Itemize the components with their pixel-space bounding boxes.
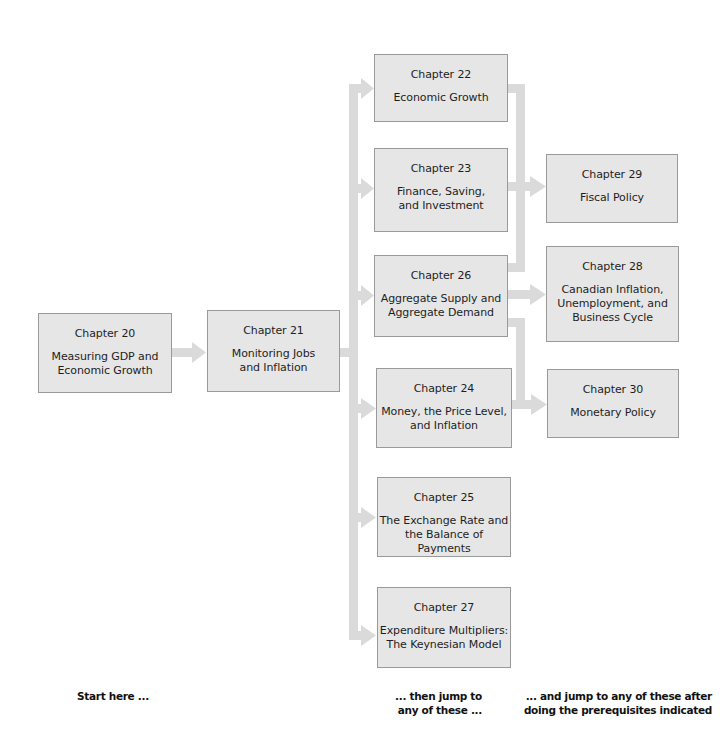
chapter-number: Chapter 20 <box>39 327 171 341</box>
chapter-number: Chapter 29 <box>547 168 677 182</box>
chapter-title: Fiscal Policy <box>547 191 677 205</box>
chapter-title: Measuring GDP and Economic Growth <box>39 350 171 378</box>
chapter-title: Expenditure Multipliers: The Keynesian M… <box>378 624 510 652</box>
chapter-28-box: Chapter 28 Canadian Inflation, Unemploym… <box>546 246 679 342</box>
chapter-title: The Exchange Rate and the Balance of Pay… <box>378 514 510 556</box>
chapter-number: Chapter 21 <box>208 324 339 338</box>
chapter-21-box: Chapter 21 Monitoring Jobs and Inflation <box>207 310 340 392</box>
chapter-24-box: Chapter 24 Money, the Price Level, and I… <box>376 368 512 448</box>
then-jump-label: ... then jump to any of these ... <box>386 689 482 717</box>
chapter-number: Chapter 23 <box>375 162 507 176</box>
chapter-25-box: Chapter 25 The Exchange Rate and the Bal… <box>377 477 511 557</box>
chapter-26-box: Chapter 26 Aggregate Supply and Aggregat… <box>374 255 508 337</box>
chapter-number: Chapter 22 <box>375 68 507 82</box>
chapter-22-box: Chapter 22 Economic Growth <box>374 54 508 122</box>
chapter-30-box: Chapter 30 Monetary Policy <box>547 369 679 438</box>
and-jump-label: ... and jump to any of these after doing… <box>512 689 712 717</box>
chapter-title: Finance, Saving, and Investment <box>375 185 507 213</box>
chapter-number: Chapter 26 <box>375 269 507 283</box>
chapter-29-box: Chapter 29 Fiscal Policy <box>546 154 678 223</box>
chapter-20-box: Chapter 20 Measuring GDP and Economic Gr… <box>38 313 172 393</box>
chapter-27-box: Chapter 27 Expenditure Multipliers: The … <box>377 587 511 668</box>
chapter-title: Monitoring Jobs and Inflation <box>208 347 339 375</box>
chapter-number: Chapter 30 <box>548 383 678 397</box>
chapter-title: Canadian Inflation, Unemployment, and Bu… <box>547 283 678 325</box>
chapter-number: Chapter 27 <box>378 601 510 615</box>
chapter-title: Money, the Price Level, and Inflation <box>377 405 511 433</box>
chapter-title: Aggregate Supply and Aggregate Demand <box>375 292 507 320</box>
chapter-title: Monetary Policy <box>548 406 678 420</box>
chapter-number: Chapter 24 <box>377 382 511 396</box>
chapter-number: Chapter 28 <box>547 260 678 274</box>
chapter-23-box: Chapter 23 Finance, Saving, and Investme… <box>374 148 508 232</box>
start-here-label: Start here ... <box>77 689 149 703</box>
chapter-title: Economic Growth <box>375 91 507 105</box>
chapter-number: Chapter 25 <box>378 491 510 505</box>
